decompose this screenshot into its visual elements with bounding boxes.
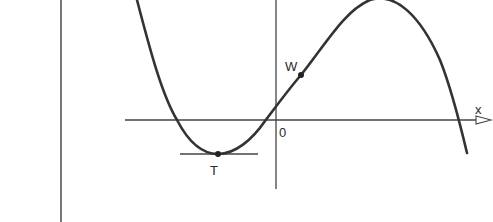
point-w-label: W xyxy=(285,59,298,74)
x-axis-label: x xyxy=(475,102,482,117)
origin-label: 0 xyxy=(279,125,286,140)
function-graph: x 0 W T xyxy=(0,0,493,222)
x-axis-arrow-icon xyxy=(476,116,491,124)
point-t-marker xyxy=(215,151,221,157)
point-t-label: T xyxy=(210,163,218,178)
point-w-marker xyxy=(298,72,304,78)
